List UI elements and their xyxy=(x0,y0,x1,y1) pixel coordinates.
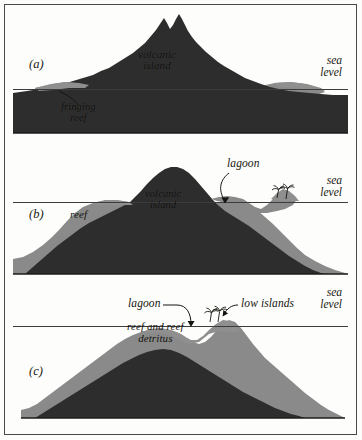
fringing-reef-label: fringing reef xyxy=(61,101,96,123)
reef-and-detritus-label: reef and reef detritus xyxy=(127,321,184,345)
lagoon-label-c: lagoon xyxy=(128,298,161,310)
panel-c-tag: (c) xyxy=(29,364,43,379)
low-islands-label: low islands xyxy=(241,298,294,310)
palm-tree-icon-c-1 xyxy=(204,308,218,322)
panel-a-fringing-reef: (a) volcanic island fringing reef sea le… xyxy=(5,5,356,147)
sea-level-label-c: sea level xyxy=(320,287,342,311)
panel-b-illustration xyxy=(5,147,356,292)
reef-label-b: reef xyxy=(70,209,87,220)
panel-c-atoll: (c) lagoon low islands reef and reef det… xyxy=(5,292,356,435)
low-islands-arrowhead-c xyxy=(223,310,228,316)
coral-reef-formation-figure: (a) volcanic island fringing reef sea le… xyxy=(0,0,362,440)
volcanic-island-label-a: volcanic island xyxy=(138,49,176,71)
panel-a-illustration xyxy=(5,5,356,147)
sea-level-label-a: sea level xyxy=(320,55,342,79)
panel-b-barrier-reef: (b) volcanic island reef lagoon sea leve… xyxy=(5,147,356,292)
reef-island-crest-b xyxy=(271,189,299,201)
lagoon-label-b: lagoon xyxy=(227,158,260,170)
panel-c-illustration xyxy=(5,292,356,435)
panel-a-tag: (a) xyxy=(29,57,44,72)
volcanic-island-label-b: volcanic island xyxy=(145,189,181,210)
sea-level-label-b: sea level xyxy=(320,175,342,199)
panel-b-tag: (b) xyxy=(29,207,44,222)
